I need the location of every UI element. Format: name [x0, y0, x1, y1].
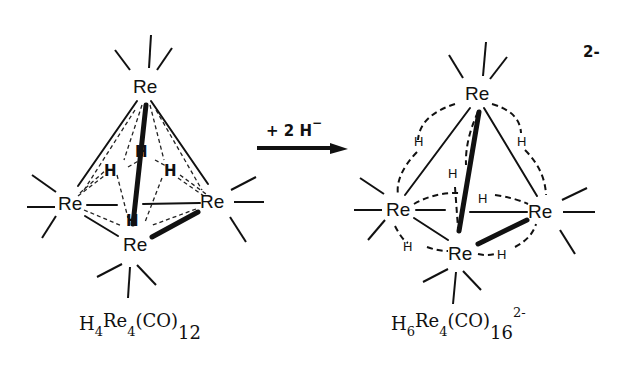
re-atom-top: Re [133, 76, 157, 97]
re-atom-bottom: Re [123, 234, 147, 255]
hydride-top-left: H [414, 134, 423, 149]
co-ligands-bottom [97, 264, 156, 298]
co-ligands-right [230, 177, 264, 242]
re-atom-right: Re [200, 191, 224, 212]
co-ligands-top [449, 42, 507, 79]
hydride-left-right: H [478, 191, 487, 206]
hydride-bottom: H [126, 212, 139, 230]
co-ligands-left [354, 178, 385, 240]
metal-bonds [405, 108, 537, 244]
hydride-top-right: H [517, 134, 526, 149]
product-charge: 2- [583, 43, 600, 61]
metal-bonds [78, 101, 208, 237]
reaction-arrow: + 2 H− [257, 116, 348, 154]
product-cluster: 2- [354, 42, 600, 343]
hydride-right-bottom: H [497, 247, 506, 262]
re-atom-bottom: Re [448, 243, 472, 264]
re-atom-right: Re [528, 201, 552, 222]
reagent-label: + 2 H− [266, 116, 322, 140]
hydride-left-bottom: H [403, 239, 412, 254]
reaction-diagram: Re Re Re Re H H H H H4Re4(CO)12 + 2 H− 2… [0, 0, 625, 369]
hydride-back: H [135, 143, 148, 161]
right-arrow-icon [330, 143, 348, 154]
co-ligands-bottom [423, 269, 481, 304]
product-formula: H6Re4(CO)162- [391, 305, 526, 343]
reactant-cluster: Re Re Re Re H H H H H4Re4(CO)12 [27, 35, 264, 343]
re-atom-left: Re [386, 199, 410, 220]
re-atom-left: Re [58, 193, 82, 214]
hydride-left: H [104, 162, 117, 180]
hydride-top-bottom: H [448, 166, 457, 181]
co-ligands-right [560, 188, 595, 254]
reactant-formula: H4Re4(CO)12 [79, 310, 201, 343]
co-ligands-top [115, 35, 172, 70]
co-ligands-left [27, 175, 56, 238]
re-atom-top: Re [465, 83, 489, 104]
hydride-right: H [164, 162, 177, 180]
